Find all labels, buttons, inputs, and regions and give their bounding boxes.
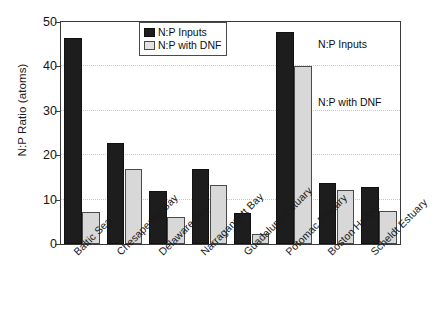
legend-item: N:P Inputs: [144, 26, 221, 38]
bar: [294, 66, 312, 244]
legend-swatch-icon: [144, 41, 155, 50]
chart-figure: N:P Ratio (atoms) 01020304050 N:P Inputs…: [0, 0, 447, 331]
bar: [107, 143, 125, 244]
legend-item-label: N:P with DNF: [158, 40, 221, 51]
gridline: [61, 65, 400, 66]
y-tick-label: 0: [17, 237, 57, 251]
legend-item-label: N:P Inputs: [158, 27, 207, 38]
legend-swatch-icon: [144, 28, 155, 37]
bar: [64, 38, 82, 244]
y-tick-label: 20: [17, 148, 57, 162]
y-tick-label: 10: [17, 193, 57, 207]
gridline: [61, 110, 400, 111]
legend: N:P Inputs N:P with DNF: [139, 22, 227, 56]
chart-annotation: N:P with DNF: [318, 96, 381, 108]
plot-area: N:P InputsN:P with DNF: [60, 21, 401, 245]
y-tick-label: 30: [17, 104, 57, 118]
chart-annotation: N:P Inputs: [318, 38, 367, 50]
y-tick-label: 40: [17, 59, 57, 73]
y-tick-label: 50: [17, 15, 57, 29]
legend-item: N:P with DNF: [144, 39, 221, 51]
